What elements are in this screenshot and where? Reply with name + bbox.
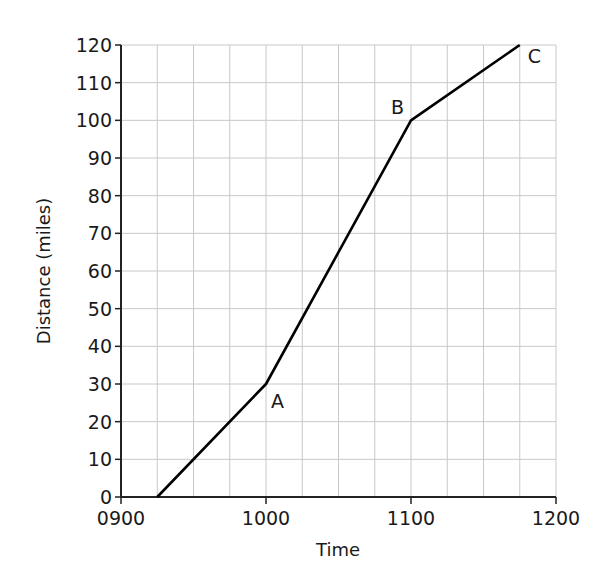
y-tick-label: 40 [88,335,112,357]
x-tick-label: 1200 [532,507,580,529]
y-tick-label: 90 [88,147,112,169]
point-label-b: B [391,96,404,118]
y-tick-label: 60 [88,260,112,282]
y-axis-label: Distance (miles) [33,198,54,344]
tick-labels: 0102030405060708090100110120090010001100… [76,34,580,529]
y-tick-label: 100 [76,109,112,131]
y-tick-label: 50 [88,298,112,320]
chart-canvas: 0102030405060708090100110120090010001100… [0,0,611,583]
y-tick-label: 120 [76,34,112,56]
y-tick-label: 80 [88,185,112,207]
point-annotations: ABC [271,45,541,412]
y-tick-label: 0 [100,486,112,508]
x-tick-label: 0900 [97,507,145,529]
y-tick-label: 10 [88,448,112,470]
point-label-a: A [271,390,284,412]
distance-time-chart: 0102030405060708090100110120090010001100… [0,0,611,583]
y-tick-label: 20 [88,411,112,433]
x-tick-label: 1100 [387,507,435,529]
grid-lines [121,45,556,497]
x-axis-label: Time [315,539,360,560]
point-label-c: C [528,45,541,67]
y-tick-label: 70 [88,222,112,244]
x-tick-label: 1000 [242,507,290,529]
y-tick-label: 110 [76,72,112,94]
axes [115,45,556,504]
y-tick-label: 30 [88,373,112,395]
